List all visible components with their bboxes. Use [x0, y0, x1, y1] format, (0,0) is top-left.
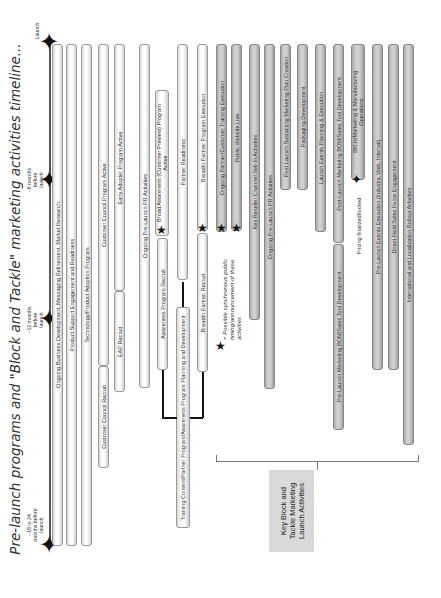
bar-pre-launch-bom: Pre-Launch Marketing BOM/Sales Tool Deve…: [333, 244, 344, 430]
bar-public-website: Public Website Live: [231, 44, 242, 231]
bar-post-launch-bom: Post-Launch Marketing BOM/Sales Tool Dev…: [333, 44, 344, 243]
bar-partner-readiness: Partner Readiness: [177, 44, 188, 280]
diagram-title-text: Pre-launch programs and "Block and Tackl…: [7, 43, 23, 554]
star-icon: ★: [230, 222, 242, 234]
bar-direct-field-sales: Direct Field Sales Force Engagement: [388, 44, 399, 370]
bar-eap-recruit: EAP Recruit: [114, 291, 125, 392]
brace-tip: [317, 461, 318, 470]
pricing-finalized-label: Pricing finalized/locked: [354, 186, 364, 266]
arrow-to-awareness-recruit: [162, 370, 164, 418]
key-activities-box: Key Block and Tackle Marketing Launch Ac…: [269, 470, 314, 552]
star-annotation: = Possible synchronous public timing/ann…: [213, 236, 251, 340]
bar-skus: SKUs/Marketing & Manufacturing Operation…: [351, 44, 365, 180]
brace-right-end: [418, 455, 419, 461]
milestone-label-12-months: ~12 months before launch: [28, 305, 42, 335]
star-icon: ★: [155, 224, 167, 236]
bar-customer-council-active: Customer Council Program Active: [98, 44, 109, 366]
bar-pre-launch-events: Pre-Launch Events Execution (Industry, W…: [372, 44, 383, 370]
bar-breadth-partner-recruit: Breadth Partner Recruit: [197, 233, 208, 372]
arrow-to-breadth-partner-recruit: [202, 372, 204, 418]
bar-early-adopter-active: Early Adopter Program Active: [114, 44, 125, 291]
bar-packaging-development: Packaging Development: [297, 44, 308, 190]
four-point-star-icon: ✦: [350, 174, 362, 186]
bar-broad-awareness: Broad Awareness (Customer Preview) Progr…: [155, 90, 169, 236]
bar-partner-customer-training: Ongoing Partner/Customer Training Execut…: [216, 44, 227, 232]
star-legend-icon: ★: [214, 340, 226, 352]
bar-pre-launch-pr-light: Ongoing Pre-Launch PR Activities: [139, 44, 150, 388]
bar-post-launch-sustaining: Post Launch Sustaining Marketing Plan Cr…: [280, 44, 291, 190]
arrow-connector: [162, 417, 177, 419]
bar-launch-events: Launch Events Planning & Execution: [315, 44, 326, 232]
bar-technology-adoption: Technology/Product Adoption Program: [81, 44, 92, 546]
bar-product-support: Product Support Engagement and Readiness: [66, 44, 77, 546]
bar-business-development: Ongoing Business Development, Messaging …: [52, 44, 63, 546]
arrow-to-partner-readiness: [182, 282, 184, 307]
star-icon: ★: [215, 222, 227, 234]
bar-awareness-recruit: Awareness Program Recruit: [157, 238, 168, 370]
milestone-label-6-months: ~6 months before launch: [28, 165, 42, 195]
star-icon: ★: [196, 222, 208, 234]
timeline-axis: [49, 40, 51, 546]
milestone-label-launch: Launch: [30, 20, 44, 42]
bar-training-content: Training Content/Partner Program/Awarene…: [176, 307, 190, 528]
bar-pre-launch-pr-grey: Ongoing Pre-Launch PR Activities: [264, 44, 275, 389]
bar-customer-council-recruit: Customer Council Recruit: [98, 366, 109, 468]
bar-international-rollout: International and Localization Rollout A…: [403, 44, 414, 445]
arrow-connector: [190, 417, 203, 419]
milestone-label-18-24-months: ~18 to 24 months before launch: [28, 505, 42, 545]
bar-breadth-partner-execution: Breadth Partner Program Execution: [197, 44, 208, 231]
